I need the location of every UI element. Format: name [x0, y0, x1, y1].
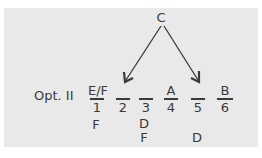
slot-4-number: 4 — [164, 101, 178, 115]
slot-6-above: B — [218, 84, 232, 98]
slot-3-below-2: F — [137, 131, 151, 145]
arrow-to-slot-5 — [164, 26, 198, 80]
arrow-to-slot-2 — [126, 26, 161, 80]
source-label-c: C — [155, 11, 167, 25]
slot-4-above: A — [164, 84, 178, 98]
slot-5-below-2: D — [190, 131, 204, 145]
slot-6-number: 6 — [218, 101, 232, 115]
slot-1-above: E/F — [86, 84, 110, 98]
slot-2-number: 2 — [116, 101, 130, 115]
slot-3-below-1: D — [137, 117, 151, 131]
arrowhead-slot-5 — [191, 71, 199, 82]
slot-1-number: 1 — [90, 101, 104, 115]
slot-3-number: 3 — [139, 101, 153, 115]
slot-5-number: 5 — [191, 101, 205, 115]
arrows-layer — [0, 0, 262, 158]
option-label: Opt. II — [34, 88, 74, 103]
slot-1-below-1: F — [89, 118, 103, 132]
